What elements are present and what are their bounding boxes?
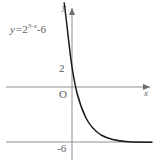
x-axis-label: x — [144, 89, 148, 98]
exponential-function-graph-figure: y=23-x-6 2 O -6 y x — [0, 0, 158, 165]
equation-exponent: 3-x — [28, 22, 37, 30]
exponential-curve — [64, 3, 152, 142]
y-tick-label-2: 2 — [59, 63, 65, 74]
y-axis-label: y — [62, 3, 66, 12]
y-tick-label-negative-6: -6 — [57, 143, 66, 154]
equation-suffix: -6 — [37, 23, 46, 35]
equation-annotation: y=23-x-6 — [10, 24, 46, 35]
equation-prefix: y= — [10, 23, 22, 35]
y-axis-arrowhead — [69, 8, 75, 15]
origin-label: O — [59, 89, 67, 100]
